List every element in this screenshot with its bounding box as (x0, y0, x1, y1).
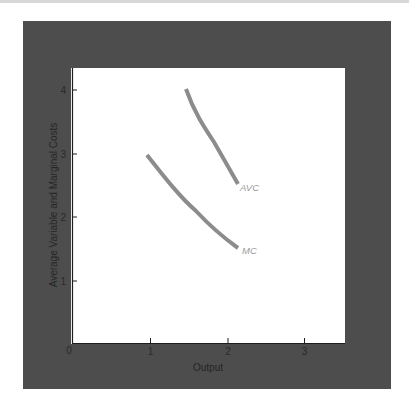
y-tick-label-1: 1 (60, 276, 66, 287)
x-axis-title: Output (193, 362, 223, 373)
x-tick-label-3: 3 (302, 346, 308, 357)
x-tick-label-2: 2 (225, 346, 231, 357)
avc-label: AVC (239, 182, 259, 193)
mc-curve (147, 155, 238, 248)
x-tick-labels: 0 1 2 3 (66, 345, 308, 357)
origin-label: 0 (66, 345, 72, 356)
mc-label: MC (242, 245, 257, 256)
chart-svg: 4 3 2 1 0 1 2 3 Output Average Variable … (0, 0, 409, 409)
x-tick-label-1: 1 (148, 346, 154, 357)
y-tick-label-2: 2 (60, 212, 66, 223)
y-axis-title: Average Variable and Marginal Costs (48, 123, 59, 288)
y-tick-label-4: 4 (60, 85, 66, 96)
avc-curve (186, 89, 238, 184)
y-tick-label-3: 3 (60, 149, 66, 160)
y-tick-labels: 4 3 2 1 (60, 85, 66, 287)
